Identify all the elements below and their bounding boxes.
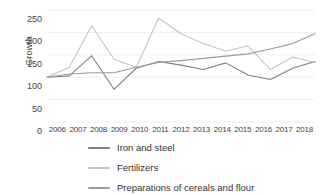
- gridlines: [47, 10, 315, 122]
- x-tick-2013: 2013: [191, 124, 212, 136]
- legend-label-iron-and-steel: Iron and steel: [117, 141, 175, 154]
- x-tick-2018: 2018: [294, 124, 315, 136]
- series-line-preparations-of-cereals-and-flour: [47, 34, 315, 77]
- x-axis-ticks: 2006200720082009201020112012201320142015…: [47, 124, 315, 136]
- x-tick-2012: 2012: [171, 124, 192, 136]
- x-tick-2011: 2011: [150, 124, 171, 136]
- x-tick-2008: 2008: [88, 124, 109, 136]
- y-axis-ticks: 250 200 150 100 50 0: [0, 20, 42, 132]
- legend-label-fertilizers: Fertilizers: [117, 161, 158, 174]
- y-tick-100: 100: [0, 82, 42, 91]
- legend-item-fertilizers[interactable]: Fertilizers: [88, 161, 325, 174]
- x-tick-2009: 2009: [109, 124, 130, 136]
- x-tick-2006: 2006: [47, 124, 68, 136]
- x-tick-2017: 2017: [274, 124, 295, 136]
- y-tick-0: 0: [0, 127, 42, 136]
- legend-swatch-fertilizers: [88, 167, 110, 169]
- x-tick-2015: 2015: [232, 124, 253, 136]
- plot-svg: [47, 10, 315, 122]
- legend-item-iron-and-steel[interactable]: Iron and steel: [88, 141, 325, 154]
- x-tick-2007: 2007: [68, 124, 89, 136]
- legend-item-preparations-of-cereals-and-flour[interactable]: Preparations of cereals and flour: [88, 181, 325, 194]
- legend-swatch-iron-and-steel: [88, 147, 110, 149]
- y-tick-150: 150: [0, 60, 42, 69]
- y-tick-200: 200: [0, 37, 42, 46]
- series-lines: [47, 18, 315, 89]
- legend-label-preparations-of-cereals-and-flour: Preparations of cereals and flour: [117, 181, 254, 194]
- x-tick-2016: 2016: [253, 124, 274, 136]
- legend-swatch-preparations-of-cereals-and-flour: [88, 187, 110, 189]
- x-tick-2010: 2010: [129, 124, 150, 136]
- growth-line-chart: Growth 250 200 150 100 50 0 200620072008…: [0, 0, 325, 195]
- y-tick-50: 50: [0, 105, 42, 114]
- chart-legend: Iron and steelFertilizersPreparations of…: [0, 141, 325, 194]
- plot-area: Growth 250 200 150 100 50 0: [47, 10, 315, 122]
- x-tick-2014: 2014: [212, 124, 233, 136]
- y-tick-250: 250: [0, 15, 42, 24]
